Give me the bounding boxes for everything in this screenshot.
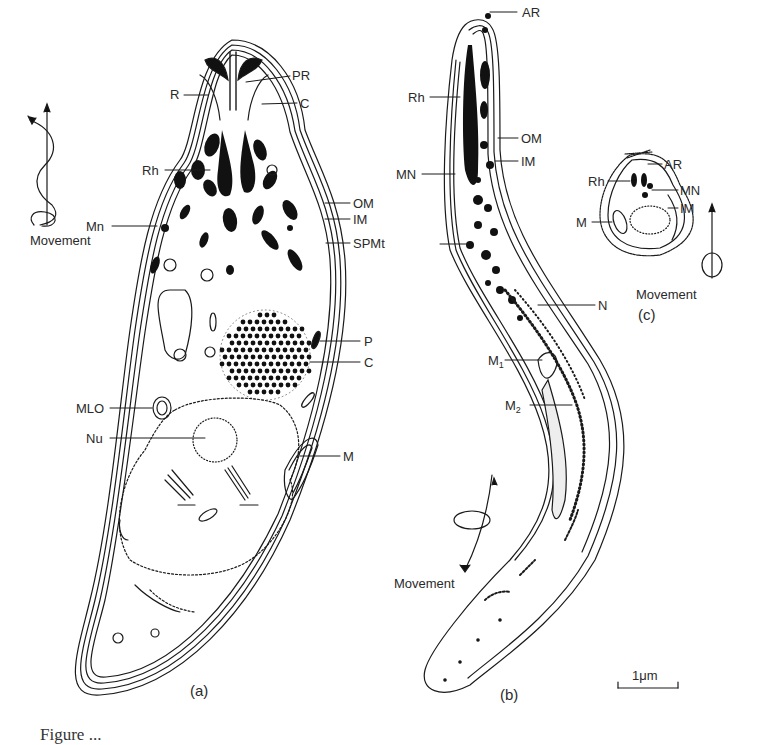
label-c-im: IM: [680, 201, 694, 216]
panel-a-cell: [75, 40, 345, 695]
scale-bar-label: 1μm: [632, 668, 658, 683]
label-a-p: P: [364, 334, 373, 349]
panel-label-c: (c): [638, 306, 656, 323]
label-a-rh: Rh: [142, 163, 159, 178]
leader-lines-a: [110, 76, 360, 456]
movement-arrow-c: [702, 204, 722, 278]
leader-lines-c: [592, 164, 678, 222]
label-b-m2: M2: [505, 398, 521, 415]
label-c-rh: Rh: [588, 174, 605, 189]
figure-caption-partial: Figure ...: [40, 725, 101, 745]
label-a-mn: Mn: [86, 219, 104, 234]
movement-label-b: Movement: [394, 576, 455, 591]
label-a-nu: Nu: [86, 431, 103, 446]
label-a-om: OM: [353, 196, 374, 211]
label-b-m1: M1: [488, 353, 504, 370]
label-c-mn: MN: [680, 183, 700, 198]
panel-label-a: (a): [190, 682, 208, 699]
label-a-c-top: C: [300, 96, 309, 111]
label-a-r: R: [170, 87, 179, 102]
label-b-n: N: [598, 298, 607, 313]
label-b-ar: AR: [522, 5, 540, 20]
label-a-mlo: MLO: [76, 401, 104, 416]
nucleus-envelope: [119, 398, 298, 575]
label-c-ar: AR: [664, 157, 682, 172]
label-b-mn: MN: [396, 167, 416, 182]
label-a-m: M: [343, 449, 354, 464]
label-b-im: IM: [521, 154, 535, 169]
label-a-spmt: SPMt: [353, 236, 385, 251]
label-a-im: IM: [353, 212, 367, 227]
leader-lines-b: [422, 12, 595, 405]
movement-arrow-a: [28, 104, 56, 226]
label-a-c-mid: C: [364, 355, 373, 370]
panel-label-b: (b): [500, 686, 518, 703]
label-b-rh: Rh: [408, 90, 425, 105]
movement-label-c: Movement: [636, 287, 697, 302]
label-c-m: M: [576, 215, 587, 230]
movement-label-a: Movement: [30, 233, 91, 248]
movement-arrow-b: [454, 475, 497, 572]
label-a-pr: PR: [292, 68, 310, 83]
label-b-om: OM: [521, 131, 542, 146]
